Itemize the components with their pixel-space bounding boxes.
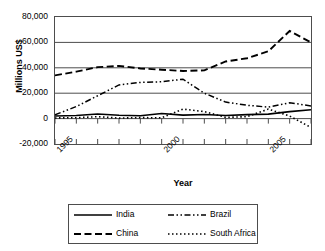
legend-swatch-brazil [167, 210, 207, 220]
y-axis-tick-label: 80,000 [4, 12, 48, 21]
legend-label-south-africa: South Africa [210, 229, 256, 238]
y-axis-tick-label: 0 [4, 114, 48, 123]
legend-label-brazil: Brazil [210, 210, 231, 219]
series-line-brazil [55, 79, 311, 115]
legend-swatch-south-africa [167, 229, 207, 239]
y-axis-tick-label: 40,000 [4, 63, 48, 72]
x-axis-tick-labels: 199520002005 [54, 146, 324, 176]
legend-entry-brazil[interactable]: Brazil [163, 210, 257, 220]
legend-swatch-india [73, 210, 113, 220]
legend-entry-china[interactable]: China [69, 229, 163, 239]
legend-entry-india[interactable]: India [69, 210, 163, 220]
y-axis-tick-label: 20,000 [4, 88, 48, 97]
y-axis-tick-labels: 80,00060,00040,00020,0000-20,000 [2, 0, 48, 180]
chart-legend: IndiaBrazilChinaSouth Africa [68, 204, 258, 244]
legend-label-china: China [116, 229, 138, 238]
chart-figure: Millions US$ 80,00060,00040,00020,0000-2… [0, 0, 325, 251]
y-axis-tick-label: 60,000 [4, 37, 48, 46]
plot-canvas [55, 17, 311, 144]
y-axis-tick-label: -20,000 [4, 139, 48, 148]
legend-label-india: India [116, 210, 134, 219]
series-line-india [55, 110, 311, 116]
legend-entry-south-africa[interactable]: South Africa [163, 229, 257, 239]
legend-swatch-china [73, 229, 113, 239]
plot-area [54, 16, 312, 145]
series-line-china [55, 31, 311, 75]
x-axis-title: Year [54, 178, 312, 188]
